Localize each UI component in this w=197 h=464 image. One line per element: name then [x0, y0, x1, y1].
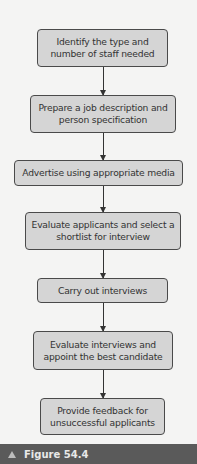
step-feedback: Provide feedback for unsuccessful applic…	[40, 398, 165, 435]
step-appoint: Evaluate interviews and appoint the best…	[33, 331, 173, 370]
step-label: Advertise using appropriate media	[22, 167, 175, 179]
arrow-connector	[103, 370, 104, 398]
triangle-up-icon	[8, 451, 16, 458]
figure-caption: Figure 54.4	[24, 449, 88, 460]
step-label: Evaluate applicants and select a shortli…	[29, 219, 177, 243]
arrow-connector	[103, 303, 104, 331]
step-label: Carry out interviews	[58, 285, 147, 297]
step-label: Identify the type and number of staff ne…	[41, 36, 164, 60]
step-identify-staff: Identify the type and number of staff ne…	[37, 29, 168, 67]
arrow-connector	[103, 186, 104, 212]
step-advertise: Advertise using appropriate media	[14, 160, 183, 186]
arrow-connector	[103, 133, 104, 160]
step-label: Evaluate interviews and appoint the best…	[37, 339, 169, 363]
step-shortlist: Evaluate applicants and select a shortli…	[25, 212, 181, 250]
step-job-description: Prepare a job description and person spe…	[30, 95, 176, 133]
arrow-connector	[103, 250, 104, 278]
arrow-connector	[103, 67, 104, 95]
step-label: Provide feedback for unsuccessful applic…	[44, 405, 161, 429]
step-label: Prepare a job description and person spe…	[34, 102, 172, 126]
figure-caption-bar: Figure 54.4	[0, 444, 197, 464]
step-interviews: Carry out interviews	[37, 278, 168, 303]
